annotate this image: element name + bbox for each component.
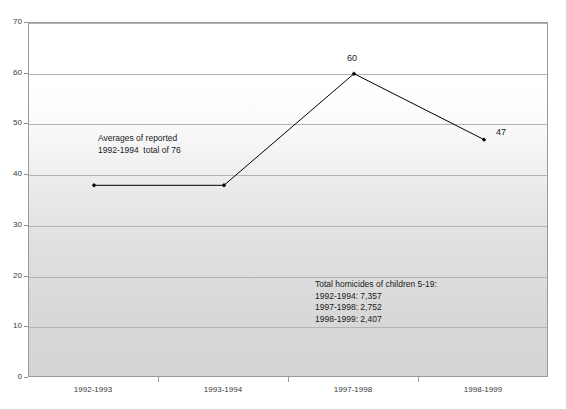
y-tick-label-20: 20 xyxy=(0,272,22,280)
y-tick-label-10: 10 xyxy=(0,322,22,330)
x-tick-label-1993-1994: 1993-1994 xyxy=(158,385,288,394)
data-point-label-1997-1998: 60 xyxy=(347,53,357,63)
y-tick-label-60: 60 xyxy=(0,69,22,77)
annotation-totals-note: Total homicides of children 5-19: 1992-1… xyxy=(315,279,437,325)
x-tick-label-1997-1998: 1997-1998 xyxy=(288,385,418,394)
chart-screenshot: 010203040506070 6047 Averages of reporte… xyxy=(0,0,567,410)
data-point-label-1998-1999: 47 xyxy=(496,127,506,137)
line-chart: 010203040506070 6047 Averages of reporte… xyxy=(0,0,567,410)
y-tick-label-40: 40 xyxy=(0,170,22,178)
annotation-averages-note: Averages of reported 1992-1994 total of … xyxy=(98,133,181,156)
data-point-marker-1992-1993 xyxy=(92,183,96,187)
y-tick-label-50: 50 xyxy=(0,119,22,127)
x-tick-label-1998-1999: 1998-1999 xyxy=(418,385,548,394)
y-tick-label-30: 30 xyxy=(0,221,22,229)
x-tick-mark-2 xyxy=(288,377,289,382)
y-tick-label-0: 0 xyxy=(0,373,22,381)
series-line-1992-1999 xyxy=(29,23,548,377)
data-point-marker-1998-1999 xyxy=(482,137,486,141)
x-tick-label-1992-1993: 1992-1993 xyxy=(28,385,158,394)
y-tick-label-70: 70 xyxy=(0,18,22,26)
series-polyline xyxy=(94,74,484,186)
x-tick-mark-1 xyxy=(158,377,159,382)
plot-area: 6047 Averages of reported 1992-1994 tota… xyxy=(28,22,548,377)
y-tick-mark-0 xyxy=(24,377,28,378)
x-tick-mark-3 xyxy=(418,377,419,382)
